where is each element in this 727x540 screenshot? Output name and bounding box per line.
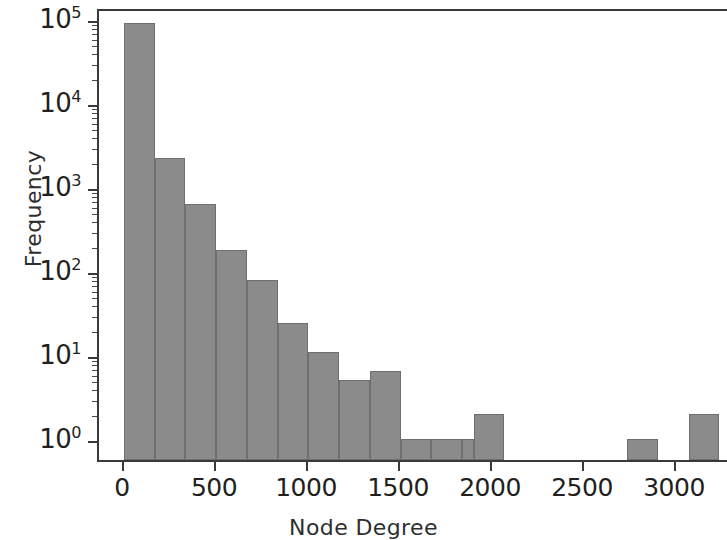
x-axis-tick-label: 1000 [275, 475, 337, 500]
y-axis-title: Frequency [21, 79, 46, 339]
x-axis-tick [214, 462, 216, 471]
x-axis-tick-label: 1500 [367, 475, 429, 500]
x-axis-tick-label: 2500 [551, 475, 613, 500]
histogram-bar [124, 23, 155, 460]
x-axis-tick-label: 500 [191, 475, 237, 500]
histogram-bar [431, 439, 462, 460]
x-axis-tick-label: 0 [114, 475, 129, 500]
histogram-bar [689, 414, 720, 460]
x-axis-tick [674, 462, 676, 471]
y-axis-tick [88, 273, 97, 275]
x-axis-title: Node Degree [0, 515, 727, 540]
x-axis-tick [306, 462, 308, 471]
histogram-bar [155, 158, 186, 460]
x-axis-tick-label: 3000 [643, 475, 705, 500]
histogram-bar [278, 323, 309, 460]
histogram-bar [627, 439, 658, 460]
y-axis-tick-label: 100 [39, 426, 81, 452]
histogram-bar [339, 380, 370, 460]
histogram-bar [401, 439, 432, 460]
histogram-bar [462, 439, 474, 460]
x-axis: 050010001500200025003000 Node Degree [0, 462, 727, 531]
x-axis-tick [582, 462, 584, 471]
x-axis-tick [490, 462, 492, 471]
y-axis-tick [88, 441, 97, 443]
histogram-bar [247, 280, 278, 460]
y-axis-tick-label: 101 [39, 342, 81, 368]
y-axis-tick [88, 105, 97, 107]
y-axis-tick [88, 189, 97, 191]
y-axis-tick [88, 357, 97, 359]
histogram-bar [474, 414, 505, 460]
histogram-bars [99, 11, 727, 460]
x-axis-tick [122, 462, 124, 471]
x-axis-tick-label: 2000 [459, 475, 521, 500]
plot-area [97, 9, 727, 462]
histogram-bar [308, 352, 339, 460]
y-axis-tick-label: 105 [39, 6, 81, 32]
histogram-bar [370, 371, 401, 460]
y-axis: 100101102103104105 Frequency [0, 0, 97, 471]
x-axis-tick [398, 462, 400, 471]
histogram-bar [216, 250, 247, 460]
histogram-bar [185, 204, 216, 460]
y-axis-tick [88, 21, 97, 23]
